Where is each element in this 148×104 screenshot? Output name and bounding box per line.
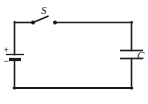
switch-lever (33, 16, 48, 22)
switch-label: S (41, 4, 47, 16)
battery-minus-sign: − (4, 56, 9, 66)
circuit-diagram-canvas: + − C S (0, 0, 148, 104)
capacitor-label: C (137, 49, 145, 61)
circuit-schematic: + − C S (0, 0, 148, 104)
battery-plus-sign: + (4, 45, 9, 55)
switch-right-contact-dot (53, 21, 57, 25)
switch-left-contact-dot (31, 21, 35, 25)
